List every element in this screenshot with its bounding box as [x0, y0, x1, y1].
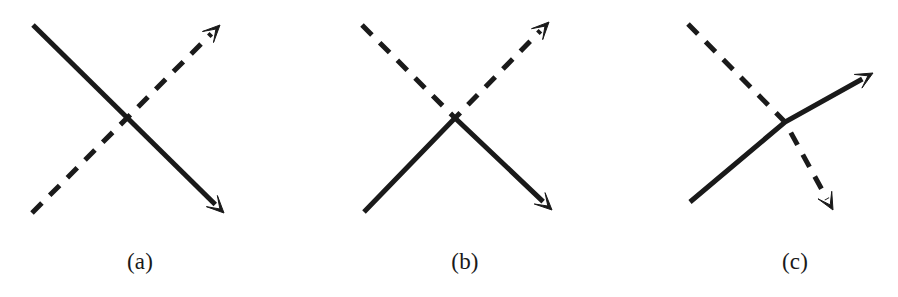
solid-line-c: [690, 79, 862, 202]
solid-line-b: [364, 118, 543, 212]
figure-root: (a) (b) (c): [0, 0, 898, 297]
panel-label-b: (b): [451, 250, 478, 273]
panel-label-a: (a): [127, 250, 153, 273]
dashed-line-b: [362, 25, 540, 118]
panel-label-c: (c): [782, 250, 808, 273]
solid-line-a: [33, 25, 215, 204]
dashed-line-a: [32, 34, 211, 213]
lines-layer: [32, 22, 873, 213]
dashed-line-c-arrowhead: [818, 191, 833, 210]
